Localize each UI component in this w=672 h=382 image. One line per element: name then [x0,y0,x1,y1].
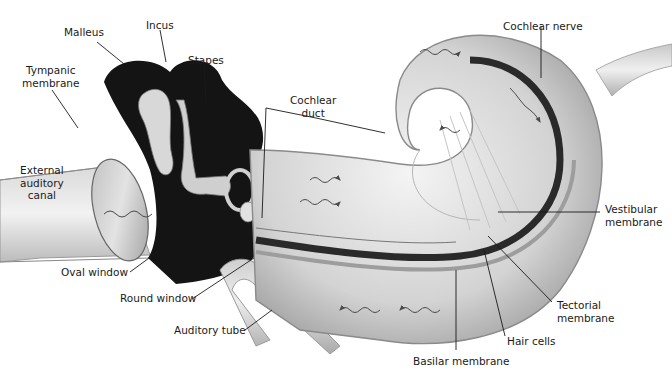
cropped-caption [100,376,310,382]
ear-anatomy-diagram: Malleus Incus Stapes Tympanic membrane E… [0,0,672,382]
cochlear-nerve-shape [596,44,672,96]
leader-tympanic-membrane [52,90,78,128]
label-cochlear-nerve: Cochlear nerve [503,20,583,33]
label-round-window: Round window [120,292,196,305]
cochlea-shape [250,35,602,343]
label-tectorial-membrane: Tectorial membrane [557,299,614,324]
label-external-auditory-canal: External auditory canal [20,164,64,202]
label-auditory-tube: Auditory tube [174,324,246,337]
leader-cochlear-duct-2 [316,118,385,133]
label-stapes: Stapes [188,54,224,67]
leader-incus [160,30,166,62]
label-oval-window: Oval window [61,266,128,279]
label-malleus: Malleus [64,26,104,39]
label-cochlear-duct: Cochlear duct [290,94,336,119]
label-tympanic-membrane: Tympanic membrane [22,64,79,89]
leader-malleus [97,42,124,64]
label-vestibular-membrane: Vestibular membrane [605,203,662,228]
label-basilar-membrane: Basilar membrane [413,355,509,368]
label-hair-cells: Hair cells [507,335,555,348]
diagram-artwork [0,0,672,382]
label-incus: Incus [146,19,174,32]
